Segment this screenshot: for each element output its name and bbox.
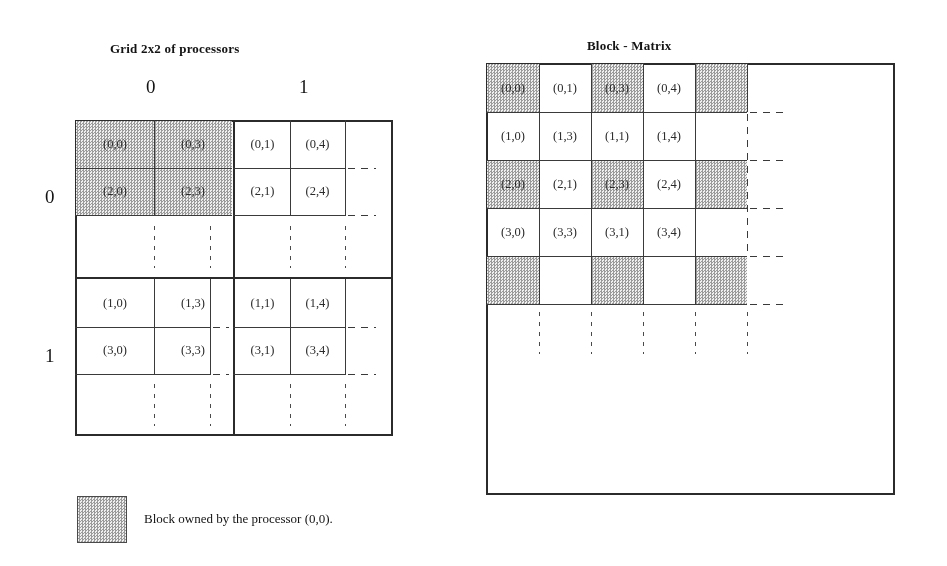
blockmatrix-cell-r0c3: (0,4) [643,64,695,112]
shaded-block-swatch [77,496,127,543]
blockmatrix-dash-h4 [750,256,785,257]
blockmatrix-cell-r3c2: (3,1) [591,208,643,256]
blockmatrix-dash-h2 [750,160,785,161]
blockmatrix-cell-r1c2: (1,1) [591,112,643,160]
blockmatrix-cell-label: (2,1) [553,177,577,192]
blockmatrix-cell-r1c0: (1,0) [487,112,539,160]
blockmatrix-dot-v4 [695,312,696,354]
blockmatrix-cell-label: (1,3) [553,129,577,144]
blockmatrix-dot-v2 [591,312,592,354]
blockmatrix-gridline-v3 [643,63,644,304]
blockmatrix-cell-r4c4 [695,256,747,304]
blockmatrix-dash-h5 [750,304,785,305]
blockmatrix-cell-r4c0 [487,256,539,304]
blockmatrix-cell-r4c3 [643,256,695,304]
blockmatrix-cell-label: (3,1) [605,225,629,240]
blockmatrix-cell-label: (2,0) [501,177,525,192]
blockmatrix-gridline-h2 [486,160,747,161]
blockmatrix-cell-label: (0,4) [657,81,681,96]
blockmatrix-cell-r2c1: (2,1) [539,160,591,208]
blockmatrix-cell-label: (1,0) [501,129,525,144]
blockmatrix-cell-r3c3: (3,4) [643,208,695,256]
blockmatrix-cell-label: (2,4) [657,177,681,192]
block-matrix-title: Block - Matrix [587,38,671,54]
blockmatrix-cell-label: (3,0) [501,225,525,240]
blockmatrix-cell-label: (2,3) [605,177,629,192]
blockmatrix-cell-label: (0,3) [605,81,629,96]
blockmatrix-gridline-v2 [591,63,592,304]
blockmatrix-cell-r2c4 [695,160,747,208]
blockmatrix-cell-r0c0: (0,0) [487,64,539,112]
blockmatrix-dash-h1 [750,112,785,113]
blockmatrix-gridline-v4 [695,63,696,304]
blockmatrix-dash-h3 [750,208,785,209]
blockmatrix-cell-label: (1,1) [605,129,629,144]
blockmatrix-dot-v3 [643,312,644,354]
blockmatrix-cell-r4c1 [539,256,591,304]
blockmatrix-cell-r1c1: (1,3) [539,112,591,160]
blockmatrix-cell-label: (1,4) [657,129,681,144]
blockmatrix-cell-r2c3: (2,4) [643,160,695,208]
blockmatrix-outer-bottom [486,493,895,495]
blockmatrix-cell-r4c2 [591,256,643,304]
legend: Block owned by the processor (0,0). [0,0,430,566]
legend-caption: Block owned by the processor (0,0). [144,511,333,527]
blockmatrix-gridline-v5 [747,63,748,112]
blockmatrix-cell-r2c2: (2,3) [591,160,643,208]
blockmatrix-cell-label: (3,4) [657,225,681,240]
blockmatrix-cell-r3c4 [695,208,747,256]
blockmatrix-cell-r1c4 [695,112,747,160]
blockmatrix-cell-r2c0: (2,0) [487,160,539,208]
blockmatrix-cell-label: (0,1) [553,81,577,96]
blockmatrix-cell-r0c2: (0,3) [591,64,643,112]
blockmatrix-cell-r3c0: (3,0) [487,208,539,256]
blockmatrix-dash-v-right [747,114,748,254]
blockmatrix-gridline-h4 [486,256,747,257]
blockmatrix-dot-v1 [539,312,540,354]
blockmatrix-cell-r3c1: (3,3) [539,208,591,256]
blockmatrix-gridline-h5 [486,304,747,305]
blockmatrix-cell-r0c1: (0,1) [539,64,591,112]
blockmatrix-cell-r0c4 [695,64,747,112]
blockmatrix-cell-r1c3: (1,4) [643,112,695,160]
blockmatrix-gridline-h3 [486,208,747,209]
blockmatrix-cell-label: (0,0) [501,81,525,96]
blockmatrix-gridline-v1 [539,63,540,304]
blockmatrix-gridline-h1 [486,112,747,113]
blockmatrix-outer-right [893,63,895,495]
blockmatrix-dot-v5 [747,312,748,354]
blockmatrix-cell-label: (3,3) [553,225,577,240]
